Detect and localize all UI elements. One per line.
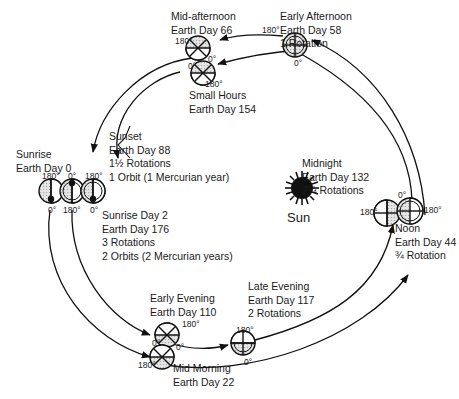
deg-label: 0° [152, 339, 160, 348]
deg-label: 0° [188, 62, 196, 71]
mercury-planet-icons [39, 33, 423, 369]
label-mid-afternoon: Mid-afternoon Earth Day 66 [171, 10, 236, 37]
deg-label: 180° [85, 172, 103, 181]
deg-label: 0° [48, 206, 56, 215]
label-late-evening: Late Evening Earth Day 117 2 Rotations [248, 280, 314, 321]
deg-label: 180° [175, 37, 193, 46]
deg-label: 0° [294, 59, 302, 68]
deg-label: 180° [262, 26, 280, 35]
deg-label: 0° [90, 206, 98, 215]
mercury-orbit-diagram: Sun Sunrise Earth Day 0 Mid Morning Eart… [0, 0, 459, 399]
deg-label: 180° [42, 172, 60, 181]
deg-label: 0° [68, 172, 76, 181]
label-small-hours: Small Hours Earth Day 154 [189, 89, 256, 116]
label-sunrise-day-2: Sunrise Day 2 Earth Day 176 3 Rotations … [102, 209, 233, 263]
deg-label: 180° [360, 208, 378, 217]
deg-label: 180° [182, 320, 200, 329]
planet-sunrise-day2-icon [81, 179, 105, 203]
label-mid-morning: Mid Morning Earth Day 22 [173, 362, 234, 389]
deg-label: 180° [63, 206, 81, 215]
deg-label: 180° [138, 361, 156, 370]
label-noon: Noon Earth Day 44 ¾ Rotation [395, 222, 456, 263]
deg-label: 0° [398, 191, 406, 200]
sun-label: Sun [287, 210, 310, 225]
deg-label: 0° [244, 358, 252, 367]
deg-label: 180° [205, 80, 223, 89]
label-midnight: Midnight Earth Day 132 2¼ Rotations [302, 157, 369, 198]
orbit-graphics [0, 0, 459, 399]
label-early-evening: Early Evening Earth Day 110 [150, 292, 216, 319]
deg-label: 0° [208, 55, 216, 64]
deg-label: 180° [424, 206, 442, 215]
label-early-afternoon: Early Afternoon Earth Day 58 1 Rotation [280, 10, 352, 51]
label-sunset: Sunset Earth Day 88 1½ Rotations 1 Orbit… [109, 130, 229, 184]
deg-label: 180° [236, 326, 254, 335]
deg-label: 0° [176, 343, 184, 352]
orbit-path-outer [49, 35, 425, 368]
